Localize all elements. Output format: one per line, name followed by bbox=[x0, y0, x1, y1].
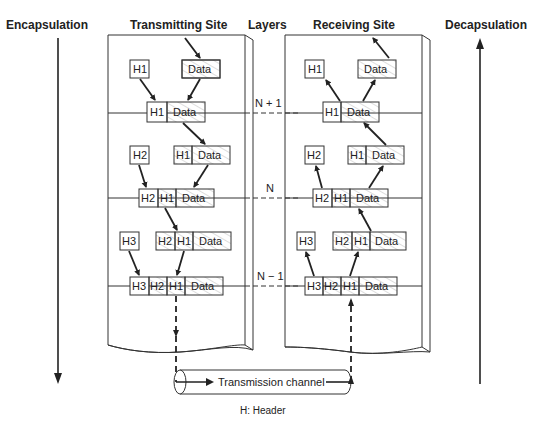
tx-h1-header: H1 bbox=[133, 63, 147, 75]
svg-text:H2: H2 bbox=[335, 235, 349, 247]
svg-text:Data: Data bbox=[191, 280, 215, 292]
svg-text:H1: H1 bbox=[160, 192, 174, 204]
svg-text:Data: Data bbox=[365, 280, 389, 292]
svg-text:H3: H3 bbox=[307, 280, 321, 292]
svg-text:H3: H3 bbox=[299, 235, 313, 247]
svg-text:H3: H3 bbox=[132, 280, 146, 292]
svg-text:H1: H1 bbox=[343, 280, 357, 292]
layers-label: Layers bbox=[248, 18, 287, 32]
transmission-channel-label: Transmission channel bbox=[218, 376, 325, 388]
receiving-site-label: Receiving Site bbox=[313, 18, 395, 32]
svg-text:Data: Data bbox=[364, 63, 388, 75]
encapsulation-arrow-icon bbox=[54, 38, 62, 384]
svg-text:H1: H1 bbox=[169, 280, 183, 292]
encapsulation-diagram: Encapsulation Transmitting Site Layers R… bbox=[0, 0, 545, 430]
tx-h3-header: H3 bbox=[122, 235, 136, 247]
svg-text:H2: H2 bbox=[324, 280, 338, 292]
svg-text:H1: H1 bbox=[176, 149, 190, 161]
layer-label-n: N bbox=[266, 182, 274, 194]
encapsulation-label: Encapsulation bbox=[6, 18, 88, 32]
decapsulation-arrow-icon bbox=[476, 38, 484, 384]
svg-text:H1: H1 bbox=[308, 63, 322, 75]
svg-text:H1: H1 bbox=[350, 149, 364, 161]
svg-text:Data: Data bbox=[356, 192, 380, 204]
tx-h2-header: H2 bbox=[133, 149, 147, 161]
svg-text:Data: Data bbox=[375, 235, 399, 247]
svg-text:Data: Data bbox=[198, 149, 222, 161]
svg-text:H1: H1 bbox=[325, 106, 339, 118]
svg-text:H2: H2 bbox=[141, 192, 155, 204]
svg-text:Data: Data bbox=[199, 235, 223, 247]
svg-text:H2: H2 bbox=[315, 192, 329, 204]
transmitting-site-label: Transmitting Site bbox=[130, 18, 228, 32]
svg-text:H2: H2 bbox=[307, 149, 321, 161]
svg-text:H1: H1 bbox=[177, 235, 191, 247]
svg-text:Data: Data bbox=[372, 149, 396, 161]
svg-text:Data: Data bbox=[173, 106, 197, 118]
svg-text:H1: H1 bbox=[150, 106, 164, 118]
layer-label-n-minus-1: N − 1 bbox=[257, 270, 284, 282]
layer-label-n-plus-1: N + 1 bbox=[255, 97, 282, 109]
svg-text:H1: H1 bbox=[334, 192, 348, 204]
decapsulation-label: Decapsulation bbox=[445, 18, 527, 32]
svg-text:H2: H2 bbox=[150, 280, 164, 292]
svg-text:H1: H1 bbox=[354, 235, 368, 247]
svg-text:Data: Data bbox=[347, 106, 371, 118]
svg-text:H2: H2 bbox=[158, 235, 172, 247]
header-legend: H: Header bbox=[240, 405, 286, 416]
tx-data: Data bbox=[188, 63, 212, 75]
svg-text:Data: Data bbox=[182, 192, 206, 204]
